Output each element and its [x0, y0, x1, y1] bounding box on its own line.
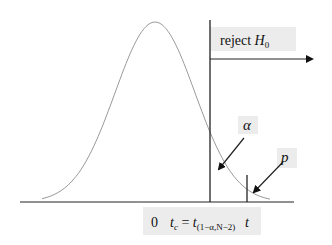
- zero-label: 0: [151, 215, 158, 230]
- alpha-label: α: [243, 117, 252, 133]
- reject-h0-label: reject H0: [220, 33, 270, 50]
- p-arrow: [254, 162, 283, 192]
- alpha-arrow: [219, 138, 244, 169]
- p-label: p: [280, 149, 289, 165]
- t-test-diagram: reject H0 α p 0 tc = t(1−α,N−2) t: [0, 0, 332, 245]
